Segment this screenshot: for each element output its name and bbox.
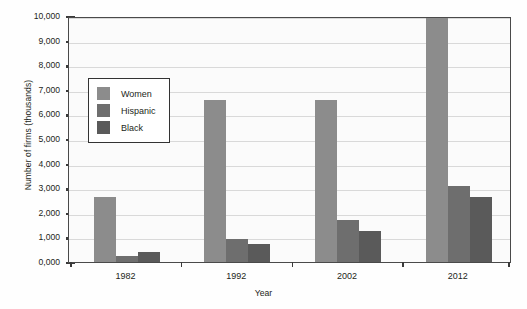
y-tick-label: 4,000 xyxy=(38,160,60,169)
x-tick-label: 1992 xyxy=(201,271,271,281)
bar-black-1982 xyxy=(138,252,160,262)
y-tick-label: 7,000 xyxy=(38,86,60,95)
legend-swatch-hispanic xyxy=(97,104,110,117)
bar-black-2012 xyxy=(470,197,492,262)
x-tick-mark xyxy=(70,262,72,267)
x-tick-mark xyxy=(181,262,183,267)
bar-women-2002 xyxy=(315,100,337,262)
y-tick-label: 1,000 xyxy=(38,233,60,242)
chart-legend: WomenHispanicBlack xyxy=(88,78,170,143)
y-tick-label: 0,000 xyxy=(38,258,60,267)
bar-hispanic-1982 xyxy=(116,256,138,262)
legend-swatch-black xyxy=(97,121,110,134)
x-tick-mark xyxy=(292,262,294,267)
y-tick-label: 2,000 xyxy=(38,209,60,218)
y-tick-label: 6,000 xyxy=(38,110,60,119)
bar-women-1992 xyxy=(204,100,226,262)
bar-women-2012 xyxy=(426,17,448,262)
bar-women-1982 xyxy=(94,197,116,262)
x-tick-label: 1982 xyxy=(91,271,161,281)
bar-hispanic-2012 xyxy=(448,186,470,262)
y-tick-label: 5,000 xyxy=(38,135,60,144)
x-tick-mark xyxy=(508,262,510,267)
x-tick-label: 2012 xyxy=(423,271,493,281)
x-axis-title: Year xyxy=(0,288,527,298)
legend-item-black: Black xyxy=(97,119,156,136)
y-tick-label: 8,000 xyxy=(38,61,60,70)
x-tick-label: 2002 xyxy=(312,271,382,281)
bar-hispanic-2002 xyxy=(337,220,359,262)
legend-label: Hispanic xyxy=(121,106,156,116)
legend-swatch-women xyxy=(97,87,110,100)
bar-black-1992 xyxy=(248,244,270,262)
y-tick-label: 3,000 xyxy=(38,184,60,193)
x-tick-mark xyxy=(402,262,404,267)
y-tick-label: 10,000 xyxy=(34,12,60,21)
y-axis-ticks: 10,0009,0008,0007,0006,0005,0004,0003,00… xyxy=(0,0,66,309)
legend-item-hispanic: Hispanic xyxy=(97,102,156,119)
bar-hispanic-1992 xyxy=(226,239,248,262)
legend-label: Women xyxy=(121,89,152,99)
bar-chart-figure: Number of firms (thousands) 10,0009,0008… xyxy=(0,0,527,309)
legend-label: Black xyxy=(121,123,143,133)
y-tick-label: 9,000 xyxy=(38,37,60,46)
bar-black-2002 xyxy=(359,231,381,262)
legend-item-women: Women xyxy=(97,85,156,102)
